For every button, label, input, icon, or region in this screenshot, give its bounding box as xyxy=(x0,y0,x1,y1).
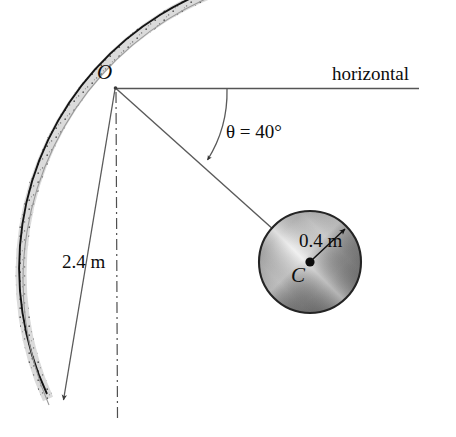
arm-length-label: 2.4 m xyxy=(62,252,105,271)
ball-center-label: C xyxy=(291,265,305,286)
angle-arc-arrow-icon xyxy=(208,89,228,160)
horizontal-label: horizontal xyxy=(332,64,409,83)
ball-radius-label: 0.4 m xyxy=(299,231,342,250)
track-outer-edge xyxy=(23,0,424,405)
track-band-tone xyxy=(21,0,418,399)
center-dot-icon xyxy=(305,257,314,266)
pivot-point-label: O xyxy=(97,62,112,83)
track-inner-edge xyxy=(19,0,413,394)
dash-dot-centerline-icon xyxy=(116,92,118,418)
angle-label: θ = 40° xyxy=(226,122,282,141)
track-band-fill xyxy=(21,0,418,399)
radial-arm-line xyxy=(116,88,285,239)
physics-diagram-figure: horizontal θ = 40° 0.4 m 2.4 m O C xyxy=(0,0,456,437)
circular-track xyxy=(19,0,424,405)
ball xyxy=(259,211,361,313)
pivot-point-icon xyxy=(114,86,118,90)
length-arrow-icon xyxy=(64,89,116,400)
